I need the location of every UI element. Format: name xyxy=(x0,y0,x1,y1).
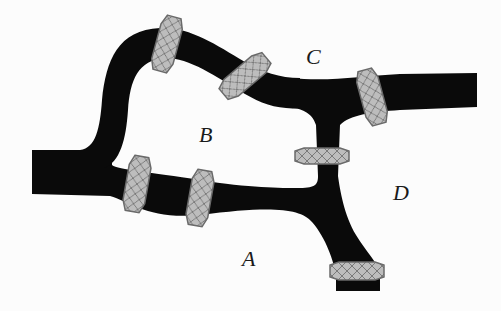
region-label-a: A xyxy=(242,248,255,270)
region-label-c: C xyxy=(306,46,321,68)
region-label-b: B xyxy=(199,124,212,146)
ring-a-right[interactable] xyxy=(184,169,215,228)
pipe-arch-b xyxy=(80,28,300,168)
region-label-d: D xyxy=(393,182,409,204)
pipe-network-diagram: A B C D xyxy=(0,0,501,311)
ring-connector[interactable] xyxy=(295,148,349,164)
ring-bottom[interactable] xyxy=(330,262,384,280)
